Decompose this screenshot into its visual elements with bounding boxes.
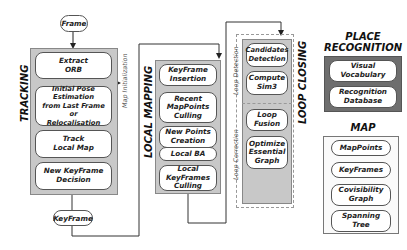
place-recognition-recognition-database: Recognition Database xyxy=(329,86,397,108)
loop-closing-step-optimize-essential-graph: Optimize Essential Graph xyxy=(246,136,288,169)
map-item-mappoints: MapPoints xyxy=(331,140,391,156)
tracking-step-new-keyframe-decision: New KeyFrame Decision xyxy=(35,162,112,190)
loop-closing-step-candidates-detection: Candidates Detection xyxy=(246,43,288,67)
tracking-step-track-local-map: Track Local Map xyxy=(35,130,112,158)
place-recognition-title: PLACE RECOGNITION xyxy=(323,31,403,53)
place-recognition-visual-vocabulary: Visual Vocabulary xyxy=(329,60,397,82)
map-initialization-label: Map Initialization xyxy=(121,54,129,109)
tracking-step-initial-pose: Initial Pose Estimation from Last Frame … xyxy=(35,86,112,126)
loop-detection-label: Loop Detection xyxy=(232,46,240,95)
keyframe-output-node: KeyFrame xyxy=(53,210,93,226)
loop-correction-label: Loop Correction xyxy=(232,129,240,180)
local-mapping-step-recent-mappoints-culling: Recent MapPoints Culling xyxy=(159,92,217,123)
tracking-step-extract-orb: Extract ORB xyxy=(35,52,112,79)
map-title: MAP xyxy=(323,122,403,133)
loop-detection-divider xyxy=(242,103,292,104)
loop-closing-step-compute-sim3: Compute Sim3 xyxy=(246,71,288,95)
map-item-spanning-tree: Spanning Tree xyxy=(331,210,391,232)
local-mapping-step-local-ba: Local BA xyxy=(159,147,217,161)
frame-input-node: Frame xyxy=(60,15,88,32)
loop-closing-title: LOOP CLOSING xyxy=(297,41,308,124)
map-item-keyframes: KeyFrames xyxy=(331,162,391,178)
local-mapping-title: LOCAL MAPPING xyxy=(143,66,154,158)
map-item-covisibility-graph: Covisibility Graph xyxy=(331,184,391,206)
local-mapping-step-keyframe-insertion: KeyFrame Insertion xyxy=(159,64,217,86)
local-mapping-step-local-keyframes-culling: Local KeyFrames Culling xyxy=(159,165,217,191)
local-mapping-step-new-points-creation: New Points Creation xyxy=(159,126,217,148)
tracking-title: TRACKING xyxy=(19,65,30,122)
loop-closing-step-loop-fusion: Loop Fusion xyxy=(246,109,288,131)
